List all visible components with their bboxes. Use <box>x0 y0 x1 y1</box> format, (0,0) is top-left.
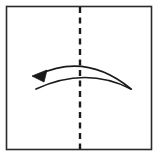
origami-fold-diagram <box>0 0 162 160</box>
diagram-canvas <box>0 0 162 160</box>
